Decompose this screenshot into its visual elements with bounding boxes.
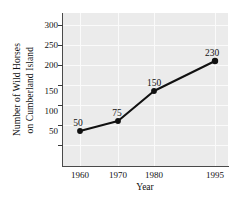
data-point-marker xyxy=(77,128,83,134)
data-label-1960: 50 xyxy=(73,118,83,128)
x-tick-label-1960: 1960 xyxy=(71,170,89,180)
x-tick-label-1980: 1980 xyxy=(145,170,163,180)
data-label-1970: 75 xyxy=(112,108,122,118)
x-tick-label-1970: 1970 xyxy=(109,170,127,180)
data-label-1980: 150 xyxy=(147,78,161,88)
data-point-marker xyxy=(115,118,121,124)
data-point-marker xyxy=(151,88,157,94)
x-axis-title: Year xyxy=(62,182,228,192)
data-label-1995: 230 xyxy=(205,48,219,58)
data-point-marker xyxy=(212,58,218,64)
wild-horses-line-chart: Number of Wild Horses on Cumberland Isla… xyxy=(0,0,239,203)
x-tick-label-1995: 1995 xyxy=(206,170,224,180)
